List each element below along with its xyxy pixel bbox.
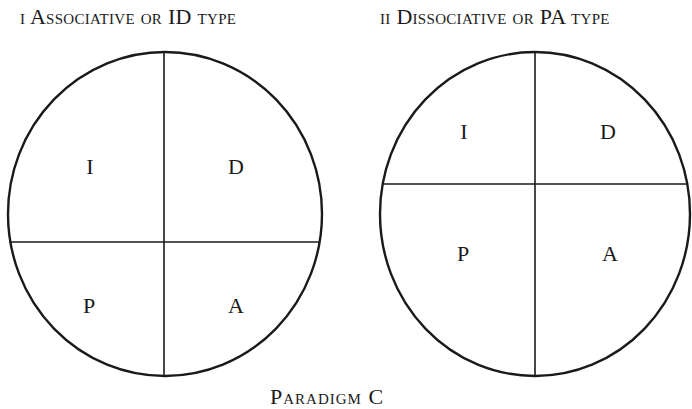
associative-circle-diagram: I D P A: [8, 52, 322, 376]
quadrant-label-p: P: [457, 241, 469, 266]
quadrant-label-a: A: [228, 293, 244, 318]
outer-circle: [8, 52, 322, 376]
quadrant-label-i: I: [86, 154, 93, 179]
quadrant-label-p: P: [83, 293, 95, 318]
quadrant-label-a: A: [602, 241, 618, 266]
dissociative-circle-diagram: I D P A: [380, 52, 690, 376]
paradigm-c-figure: I D P A I D P A: [0, 0, 692, 409]
quadrant-label-d: D: [600, 119, 616, 144]
quadrant-label-i: I: [460, 119, 467, 144]
figure-caption: Paradigm C: [270, 384, 384, 409]
quadrant-label-d: D: [228, 154, 244, 179]
